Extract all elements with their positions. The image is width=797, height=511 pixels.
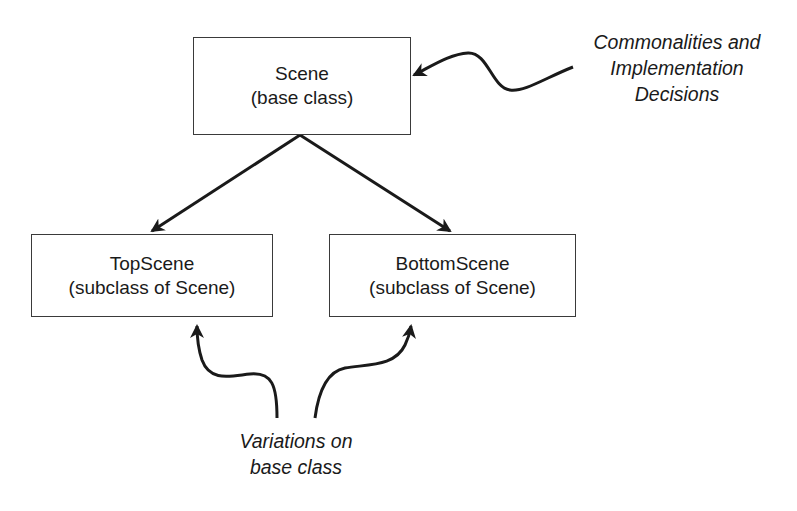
node-subtitle: (base class) [251,86,353,110]
annotation-line: Commonalities and [577,29,777,55]
commonalities-pointer-arrow [414,53,573,90]
node-topscene: TopScene (subclass of Scene) [31,234,273,317]
node-bottomscene: BottomScene (subclass of Scene) [329,234,576,317]
annotation-commonalities: Commonalities and Implementation Decisio… [577,29,777,107]
node-title: BottomScene [395,252,509,276]
annotation-line: base class [216,454,376,480]
edge-scene-to-topscene [152,135,300,231]
node-title: TopScene [110,252,195,276]
annotation-variations: Variations on base class [216,428,376,480]
annotation-line: Implementation [577,55,777,81]
variations-pointer-arrow-topscene [197,326,277,418]
edge-scene-to-bottomscene [300,135,450,231]
node-title: Scene [275,62,329,86]
variations-pointer-arrow-bottomscene [315,326,411,418]
annotation-line: Decisions [577,81,777,107]
node-subtitle: (subclass of Scene) [369,276,536,300]
annotation-line: Variations on [216,428,376,454]
node-scene: Scene (base class) [193,37,411,135]
node-subtitle: (subclass of Scene) [69,276,236,300]
